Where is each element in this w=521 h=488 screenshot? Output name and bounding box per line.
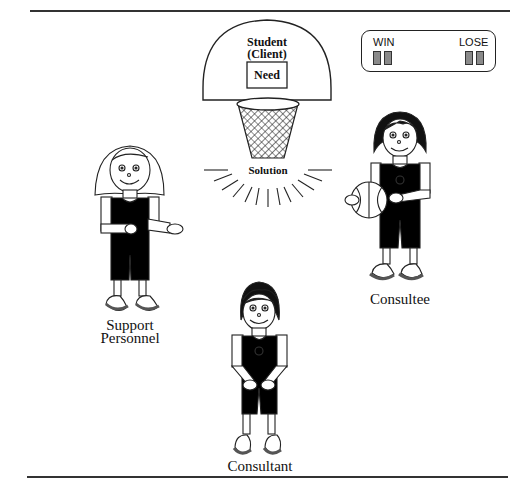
basketball-hoop (237, 98, 299, 158)
win-digit-1 (373, 51, 381, 65)
consultant-figure (232, 282, 287, 453)
lose-digit-2 (476, 51, 484, 65)
consultee-figure (345, 112, 430, 279)
need-label: Need (247, 69, 287, 81)
consultant-label: Consultant (210, 459, 310, 474)
lose-label: LOSE (459, 36, 488, 48)
win-digit-2 (384, 51, 392, 65)
solution-label: Solution (238, 165, 298, 176)
consultee-label: Consultee (355, 292, 445, 307)
backboard-title-line2: (Client) (227, 48, 307, 60)
support-personnel-figure (95, 146, 183, 310)
support-personnel-label-line2: Personnel (90, 331, 170, 346)
lose-digit-1 (465, 51, 473, 65)
win-label: WIN (373, 36, 394, 48)
scoreboard: WIN LOSE (361, 30, 496, 72)
